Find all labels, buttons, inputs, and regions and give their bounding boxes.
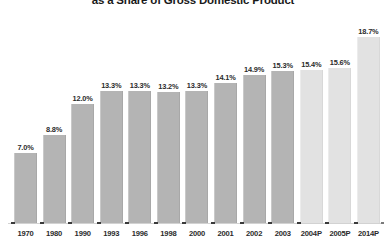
tick-slot xyxy=(128,222,151,226)
tick-slot xyxy=(243,222,266,226)
bar-actual xyxy=(43,135,66,223)
x-tick-label: 2000 xyxy=(185,229,208,238)
x-axis-ticks xyxy=(14,222,380,226)
bar-value-label: 13.3% xyxy=(130,81,150,90)
bar-actual xyxy=(100,91,123,223)
x-tick-label: 1998 xyxy=(157,229,180,238)
tick-slot xyxy=(43,222,66,226)
x-tick-label: 2001 xyxy=(214,229,237,238)
bar-value-label: 13.2% xyxy=(158,82,178,91)
bar-group: 18.7% xyxy=(357,8,380,223)
x-tick-label: 2005P xyxy=(328,229,351,238)
bar-actual xyxy=(71,104,94,223)
bar-value-label: 8.8% xyxy=(46,125,62,134)
axis-tick xyxy=(211,222,215,224)
axis-tick xyxy=(240,222,244,224)
tick-slot xyxy=(14,222,37,226)
bar-value-label: 18.7% xyxy=(358,27,378,36)
bar-value-label: 15.4% xyxy=(301,60,321,69)
bar-group: 14.9% xyxy=(243,8,266,223)
bar-series: 7.0%8.8%12.0%13.3%13.3%13.2%13.3%14.1%14… xyxy=(14,8,380,223)
axis-tick xyxy=(11,222,15,224)
bar-group: 15.3% xyxy=(271,8,294,223)
x-tick-label: 1990 xyxy=(71,229,94,238)
tick-slot xyxy=(357,222,380,226)
x-axis-labels: 1970198019901993199619982000200120022003… xyxy=(14,229,380,238)
bar-actual xyxy=(185,91,208,223)
bar-value-label: 14.9% xyxy=(244,65,264,74)
bar-projected xyxy=(328,68,351,223)
bar-group: 15.4% xyxy=(300,8,323,223)
axis-tick xyxy=(354,222,358,224)
axis-tick xyxy=(297,222,301,224)
bar-actual xyxy=(14,153,37,223)
bar-actual xyxy=(243,75,266,223)
axis-tick xyxy=(68,222,72,224)
x-tick-label: 2004P xyxy=(300,229,323,238)
bar-actual xyxy=(128,91,151,223)
tick-slot xyxy=(185,222,208,226)
bar-value-label: 13.3% xyxy=(101,81,121,90)
tick-slot xyxy=(271,222,294,226)
axis-tick xyxy=(182,222,186,224)
x-tick-label: 2002 xyxy=(243,229,266,238)
bar-projected xyxy=(357,37,380,223)
tick-slot xyxy=(157,222,180,226)
axis-tick xyxy=(97,222,101,224)
x-tick-label: 2003 xyxy=(271,229,294,238)
bar-projected xyxy=(300,70,323,223)
x-tick-label: 1996 xyxy=(128,229,151,238)
bar-chart: as a Share of Gross Domestic Product 7.0… xyxy=(0,0,386,252)
bar-actual xyxy=(157,92,180,223)
bar-value-label: 15.6% xyxy=(330,58,350,67)
axis-tick xyxy=(268,222,272,224)
axis-tick xyxy=(125,222,129,224)
bar-group: 13.3% xyxy=(128,8,151,223)
x-tick-label: 1980 xyxy=(43,229,66,238)
bar-group: 13.2% xyxy=(157,8,180,223)
x-tick-label: 1993 xyxy=(100,229,123,238)
bar-value-label: 15.3% xyxy=(273,61,293,70)
tick-slot xyxy=(300,222,323,226)
bar-group: 8.8% xyxy=(43,8,66,223)
bar-group: 13.3% xyxy=(185,8,208,223)
plot-area: 7.0%8.8%12.0%13.3%13.3%13.2%13.3%14.1%14… xyxy=(0,8,386,223)
x-tick-label: 2014P xyxy=(357,229,380,238)
axis-tick xyxy=(325,222,329,224)
bar-value-label: 13.3% xyxy=(187,81,207,90)
axis-tick xyxy=(154,222,158,224)
bar-group: 15.6% xyxy=(328,8,351,223)
bar-actual xyxy=(271,71,294,223)
bar-group: 12.0% xyxy=(71,8,94,223)
bar-value-label: 14.1% xyxy=(215,73,235,82)
tick-slot xyxy=(214,222,237,226)
x-tick-label: 1970 xyxy=(14,229,37,238)
tick-slot xyxy=(328,222,351,226)
bar-group: 7.0% xyxy=(14,8,37,223)
axis-tick xyxy=(40,222,44,224)
bar-value-label: 7.0% xyxy=(17,143,33,152)
tick-slot xyxy=(71,222,94,226)
bar-group: 14.1% xyxy=(214,8,237,223)
chart-title: as a Share of Gross Domestic Product xyxy=(0,0,386,8)
bar-group: 13.3% xyxy=(100,8,123,223)
tick-slot xyxy=(100,222,123,226)
bar-actual xyxy=(214,83,237,223)
axis-tick-end xyxy=(381,222,384,224)
bar-value-label: 12.0% xyxy=(73,94,93,103)
